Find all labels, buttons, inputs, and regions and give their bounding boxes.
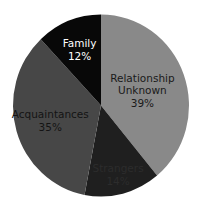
pie-chart: RelationshipUnknown39%Strangers14%Acquai… (0, 0, 203, 214)
